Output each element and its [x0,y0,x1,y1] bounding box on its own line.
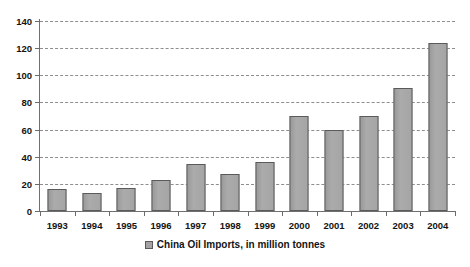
bar-chart: 140120100806040200 199319941995199619971… [0,0,470,267]
x-tick-mark [317,211,318,216]
bar [290,116,309,211]
x-tick-mark [282,211,283,216]
bar-slot [351,21,386,211]
bar-slot [40,21,75,211]
y-tick-label: 20 [21,178,32,189]
y-tick-label: 120 [16,43,32,54]
x-tick-label: 1995 [116,220,137,231]
x-tick-label: 2000 [289,220,310,231]
x-tick-mark [248,211,249,216]
bar-slot [248,21,283,211]
bar [152,180,171,211]
bar-slot [420,21,455,211]
bar-slot [75,21,110,211]
bar-slot [213,21,248,211]
x-tick-label: 2004 [427,220,448,231]
legend-label: China Oil Imports, in million tonnes [157,239,325,250]
y-tick-label: 60 [21,124,32,135]
bar [255,162,274,211]
bar-slot [109,21,144,211]
y-tick-label: 140 [16,16,32,27]
x-tick-label: 1998 [220,220,241,231]
x-tick-mark [455,211,456,216]
y-tick-label: 0 [27,206,32,217]
x-tick-label: 2003 [393,220,414,231]
bar [394,88,413,212]
bar-slot [282,21,317,211]
bar [82,193,101,211]
y-tick-label: 100 [16,70,32,81]
y-tick-label: 40 [21,151,32,162]
x-tick-mark [144,211,145,216]
bar-slot [144,21,179,211]
x-tick-label: 1996 [150,220,171,231]
x-tick-mark [351,211,352,216]
x-tick-mark [109,211,110,216]
x-tick-label: 2001 [323,220,344,231]
bar [428,43,447,211]
bar-slot [178,21,213,211]
bar [221,174,240,211]
x-tick-mark [75,211,76,216]
x-tick-mark [40,211,41,216]
bar [324,130,343,211]
x-tick-label: 2002 [358,220,379,231]
bar-series [40,21,455,211]
chart-legend: China Oil Imports, in million tonnes [0,239,470,250]
bar-slot [317,21,352,211]
bar [359,116,378,211]
y-axis-labels: 140120100806040200 [0,0,34,267]
x-tick-label: 1999 [254,220,275,231]
bar-slot [386,21,421,211]
x-tick-mark [213,211,214,216]
bar [48,189,67,211]
x-tick-label: 1993 [47,220,68,231]
bar [186,164,205,212]
legend-swatch-icon [145,241,153,249]
x-tick-label: 1994 [81,220,102,231]
x-tick-mark [178,211,179,216]
x-tick-mark [420,211,421,216]
x-tick-mark [386,211,387,216]
y-tick-label: 80 [21,97,32,108]
bar [117,188,136,211]
x-tick-label: 1997 [185,220,206,231]
